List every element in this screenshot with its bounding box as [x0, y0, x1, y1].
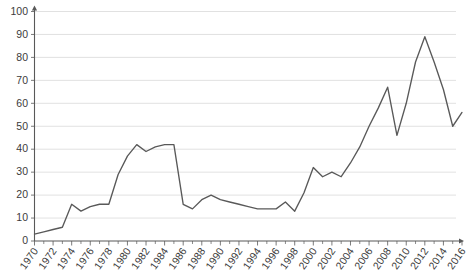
x-axis-tick-label: 1992	[221, 245, 244, 271]
x-axis-tick-label: 2000	[296, 245, 319, 271]
x-axis-tick-label: 2004	[333, 245, 356, 271]
x-axis-tick-label: 1998	[277, 245, 300, 271]
x-axis-labels-group: 1970197219741976197819801982198419861988…	[17, 245, 468, 271]
line-chart: 0102030405060708090100 19701972197419761…	[0, 0, 470, 277]
y-axis-tick-label: 80	[16, 51, 28, 63]
x-axis-tick-label: 1996	[259, 245, 282, 271]
y-axis-tick-label: 20	[16, 188, 28, 200]
x-axis-tick-label: 2008	[370, 245, 393, 271]
y-axis-tick-label: 70	[16, 74, 28, 86]
chart-container: 0102030405060708090100 19701972197419761…	[0, 0, 470, 277]
x-axis-tick-label: 1986	[166, 245, 189, 271]
x-axis-tick-label: 2002	[314, 245, 337, 271]
y-axis-tick-label: 10	[16, 211, 28, 223]
x-axis-tick-label: 1994	[240, 245, 263, 271]
x-axis-tick-label: 1970	[17, 245, 40, 271]
x-axis-tick-label: 2010	[389, 245, 412, 271]
x-axis-tick-label: 1984	[147, 245, 170, 271]
x-axis-tick-label: 1972	[35, 245, 58, 271]
x-axis-tick-label: 2014	[426, 245, 449, 271]
x-axis-tick-label: 2016	[444, 245, 467, 271]
y-axis-tick-label: 60	[16, 97, 28, 109]
y-axis-tick-label: 30	[16, 165, 28, 177]
y-axis-tick-label: 50	[16, 120, 28, 132]
data-series-line	[35, 37, 463, 234]
y-axis-tick-label: 90	[16, 28, 28, 40]
x-axis-tick-label: 1988	[184, 245, 207, 271]
x-axis-tick-label: 2006	[351, 245, 374, 271]
y-axis-tick-label: 0	[22, 234, 28, 246]
x-axis-tick-label: 1978	[91, 245, 114, 271]
y-axis-tick-label: 40	[16, 142, 28, 154]
x-axis-tick-label: 1982	[128, 245, 151, 271]
x-axis-tick-label: 1980	[110, 245, 133, 271]
x-axis-tick-label: 1976	[73, 245, 96, 271]
y-axis-labels-group: 0102030405060708090100	[10, 5, 28, 247]
x-axis-arrow	[459, 238, 464, 243]
y-axis-tick-label: 100	[10, 5, 28, 17]
x-axis-tick-label: 1990	[203, 245, 226, 271]
x-axis-tick-label: 2012	[407, 245, 430, 271]
x-axis-tick-label: 1974	[54, 245, 77, 271]
x-axis-minor-ticks-group	[35, 241, 463, 246]
y-axis-arrow	[32, 6, 37, 11]
